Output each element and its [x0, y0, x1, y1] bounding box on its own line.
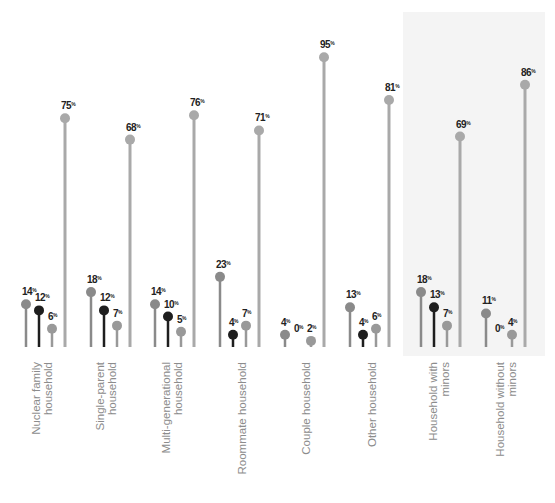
- value-label: 71%: [255, 112, 270, 123]
- category-label-roommate: Roommate household: [236, 362, 248, 502]
- value-label: 12%: [35, 292, 50, 303]
- lollipop-dot: [442, 321, 452, 331]
- lollipop-dot: [150, 299, 160, 309]
- group-multi-generational: 14%10%5%76%: [150, 97, 205, 347]
- category-label-nuclear-family: Nuclear family household: [30, 362, 54, 502]
- value-label: 68%: [126, 122, 141, 133]
- value-label: 11%: [482, 295, 497, 306]
- group-without-minors: 11%0%4%86%: [481, 67, 536, 347]
- lollipop-dot: [358, 330, 368, 340]
- group-with-minors: 18%13%7%69%: [416, 119, 471, 347]
- value-label: 13%: [346, 289, 361, 300]
- value-label: 23%: [216, 259, 231, 270]
- group-single-parent: 18%12%7%68%: [86, 122, 141, 347]
- value-label: 4%: [508, 317, 518, 328]
- category-label-single-parent: Single-parent household: [94, 362, 118, 502]
- lollipop-dot: [125, 135, 135, 145]
- value-label: 69%: [456, 119, 471, 130]
- value-label: 76%: [190, 97, 205, 108]
- lollipop-dot: [176, 327, 186, 337]
- category-label-multi-generational: Multi-generational household: [160, 362, 184, 502]
- lollipop-dot: [34, 305, 44, 315]
- group-roommate: 23%4%7%71%: [215, 112, 270, 347]
- lollipop-chart: 14%12%6%75%18%12%7%68%14%10%5%76%23%4%7%…: [0, 0, 555, 503]
- lollipop-dot: [189, 110, 199, 120]
- value-label: 95%: [320, 39, 335, 50]
- value-label: 18%: [87, 274, 102, 285]
- category-label-with-minors: Household with minors: [427, 362, 451, 502]
- value-label: 5%: [177, 314, 187, 325]
- value-label: 4%: [359, 317, 369, 328]
- lollipop-dot: [507, 330, 517, 340]
- lollipop-dot: [520, 80, 530, 90]
- value-label: 4%: [229, 317, 239, 328]
- value-label: 0%: [294, 323, 304, 334]
- lollipop-dot: [319, 52, 329, 62]
- lollipop-dot: [254, 125, 264, 135]
- value-label: 86%: [521, 67, 536, 78]
- category-label-without-minors: Household without minors: [494, 362, 518, 502]
- lollipop-dot: [21, 299, 31, 309]
- group-nuclear-family: 14%12%6%75%: [21, 100, 76, 347]
- value-label: 81%: [385, 82, 400, 93]
- value-label: 10%: [164, 299, 179, 310]
- value-label: 18%: [417, 274, 432, 285]
- value-label: 13%: [430, 289, 445, 300]
- lollipop-dot: [455, 132, 465, 142]
- lollipop-dot: [47, 324, 57, 334]
- value-label: 12%: [100, 292, 115, 303]
- value-label: 6%: [372, 311, 382, 322]
- value-label: 2%: [307, 323, 317, 334]
- lollipop-dot: [215, 272, 225, 282]
- lollipop-dot: [280, 330, 290, 340]
- lollipop-dot: [163, 312, 173, 322]
- value-label: 7%: [113, 308, 123, 319]
- value-label: 4%: [281, 317, 291, 328]
- lollipop-dot: [241, 321, 251, 331]
- value-label: 7%: [242, 308, 252, 319]
- lollipop-dot: [228, 330, 238, 340]
- lollipop-dot: [371, 324, 381, 334]
- value-label: 14%: [151, 286, 166, 297]
- lollipop-dot: [429, 302, 439, 312]
- group-couple: 4%0%2%95%: [280, 39, 335, 347]
- lollipop-dot: [60, 113, 70, 123]
- value-label: 0%: [495, 323, 505, 334]
- lollipop-dot: [306, 336, 316, 346]
- lollipop-dot: [345, 302, 355, 312]
- value-label: 75%: [61, 100, 76, 111]
- lollipop-dot: [86, 287, 96, 297]
- lollipop-dot: [416, 287, 426, 297]
- category-label-couple: Couple household: [300, 362, 312, 502]
- category-label-other: Other household: [366, 362, 378, 502]
- group-other: 13%4%6%81%: [345, 82, 400, 347]
- lollipop-dot: [99, 305, 109, 315]
- lollipop-dot: [112, 321, 122, 331]
- lollipop-dot: [481, 308, 491, 318]
- value-label: 7%: [443, 308, 453, 319]
- value-label: 6%: [48, 311, 58, 322]
- lollipop-dot: [384, 95, 394, 105]
